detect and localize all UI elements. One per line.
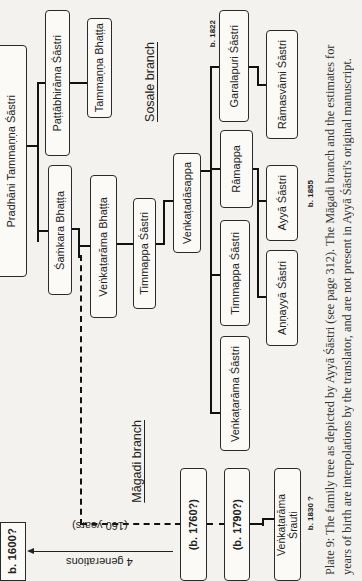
person-name: Rāmasvāmi Śāstri	[276, 40, 289, 129]
connector	[257, 168, 259, 298]
connector	[210, 412, 220, 414]
person-box-tammanna-bhatta: Tammaṇṇa Bhaṭṭa	[87, 18, 112, 118]
person-name: Ayyā Śāstri	[276, 175, 289, 230]
generation-gap-arrow	[33, 551, 173, 552]
person-name: Aṇṇayyā Śāstri	[276, 261, 289, 335]
magadi-dashed-connector	[250, 523, 262, 525]
person-name: Veṅkaṭarāma Śāstri	[229, 346, 242, 442]
person-name: Garalapuri Śāstri	[228, 25, 241, 108]
connector	[163, 200, 173, 202]
person-name: Veṅkaṭarāma Śrauti	[275, 494, 299, 556]
person-box-pattabhirama-sastri: Paṭṭābhirāma Śāstri	[45, 10, 70, 156]
root-date-box: b. 1600?	[0, 522, 26, 581]
person-box-pradhani-tammanna-sastri: Pradhāni Tammaṇṇa Śāstri	[0, 45, 27, 277]
family-tree-diagram: Pradhāni Tammaṇṇa Śāstri Paṭṭābhirāma Śā…	[0, 0, 362, 581]
generation-gap-count: 4 generations	[66, 556, 133, 568]
person-name: Veṅkaṭarāma Bhaṭṭa	[97, 197, 110, 297]
date-label-ayya: b. 1855	[306, 180, 315, 207]
connector	[163, 200, 165, 245]
magadi-dashed-connector	[80, 255, 82, 525]
root-date: b. 1600?	[6, 528, 19, 574]
connector	[78, 245, 90, 247]
person-name: (b. 1790?)	[231, 499, 244, 550]
person-box-venkatarama-srauti: Veṅkaṭarāma Śrauti	[274, 468, 301, 581]
connector	[117, 243, 134, 245]
arrow-head-icon	[27, 548, 34, 554]
person-name: Timmappa Śāstri	[138, 212, 151, 295]
person-box-samkara-bhatta: Śaṁkara Bhaṭṭa	[48, 165, 72, 295]
person-box-ramappa: Rāmappa	[220, 130, 253, 208]
person-name-line2: Śrauti	[288, 511, 300, 538]
person-name: Veṅkaṭadāsappa	[181, 162, 194, 244]
magadi-dashed-connector	[207, 523, 225, 525]
connector	[210, 274, 220, 276]
person-box-annayya-sastri: Aṇṇayyā Śāstri	[266, 250, 298, 346]
person-box-venkatarama-bhatta: Veṅkaṭarāma Bhaṭṭa	[90, 175, 117, 318]
date-label-garalapuri: b. 1822	[208, 20, 217, 47]
person-box-b1760: (b. 1760?)	[180, 468, 207, 581]
figure-caption: Plate 9: The family tree as depicted by …	[322, 15, 356, 575]
connector	[257, 66, 259, 86]
person-box-venkatadasappa: Veṅkaṭadāsappa	[173, 153, 201, 253]
person-box-garalapuri-sastri: Garalapuri Śāstri	[219, 10, 249, 122]
person-name: Timmappa Śāstri	[229, 232, 242, 315]
person-name: Pradhāni Tammaṇṇa Śāstri	[5, 95, 18, 227]
person-name: Rāmappa	[230, 145, 243, 193]
person-name: Tammaṇṇa Bhaṭṭa	[93, 23, 106, 112]
person-box-ramasvami-sastri: Rāmasvāmi Śāstri	[266, 30, 298, 139]
person-box-venkatarama-sastri: Veṅkaṭarāma Śāstri	[220, 336, 250, 451]
connector	[78, 228, 80, 258]
person-name: Paṭṭābhirāma Śāstri	[51, 35, 64, 132]
person-box-timmappa-sastri-1: Timmappa Śāstri	[133, 198, 156, 309]
sosale-branch-label: Sosale branch	[143, 42, 157, 122]
person-box-timmappa-sastri-2: Timmappa Śāstri	[220, 220, 250, 326]
person-name: (b. 1760?)	[187, 499, 200, 550]
connector	[210, 66, 212, 414]
caption-line-2: years of birth are interpolations by the…	[340, 58, 354, 575]
person-name-line1: Veṅkaṭarāma	[275, 494, 287, 556]
connector	[37, 82, 39, 242]
person-name: Śaṁkara Bhaṭṭa	[54, 191, 67, 270]
magadi-branch-label: Māgadi branch	[130, 420, 144, 503]
caption-line-1: Plate 9: The family tree as depicted by …	[323, 45, 337, 575]
connector	[210, 168, 220, 170]
date-label-srauti: b. 1830 ?	[306, 496, 315, 530]
generation-gap-years: (160 years)	[72, 520, 128, 532]
magadi-dashed-connector	[262, 518, 274, 520]
person-box-b1790: (b. 1790?)	[224, 468, 250, 581]
person-box-ayya-sastri: Ayyā Śāstri	[266, 165, 298, 241]
